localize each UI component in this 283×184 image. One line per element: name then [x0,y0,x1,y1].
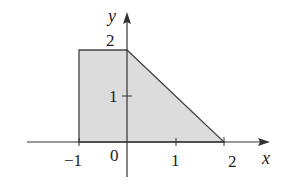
x-tick-label-1: 1 [171,151,180,170]
x-tick-label-minus1: −1 [64,151,82,170]
region-diagram: −1 0 1 2 1 2 x y [0,0,283,184]
origin-label: 0 [110,146,119,165]
shaded-region [79,50,224,142]
x-axis-label: x [261,148,270,168]
y-axis-label: y [106,6,116,26]
x-tick-label-2: 2 [228,152,237,171]
y-tick-label-1: 1 [109,87,118,106]
y-tick-label-2: 2 [106,31,115,50]
